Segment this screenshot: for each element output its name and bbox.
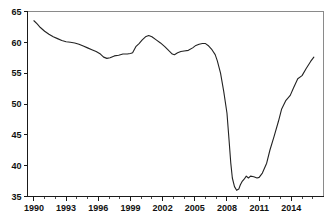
y-tick-label: 50	[11, 99, 21, 109]
plot-axis-left-bottom	[28, 12, 324, 197]
x-tick-label: 2002	[153, 203, 173, 213]
x-axis-tick-labels: 199019931996199920022005200820112014	[24, 203, 301, 213]
x-tick-label: 1993	[56, 203, 76, 213]
y-tick-label: 55	[11, 68, 21, 78]
x-tick-label: 2005	[185, 203, 205, 213]
y-tick-label: 40	[11, 161, 21, 171]
data-series-group	[34, 21, 314, 191]
plot-frame	[28, 12, 324, 197]
x-tick-label: 1996	[88, 203, 108, 213]
y-axis-tick-labels: 35404550556065	[11, 7, 21, 202]
y-tick-label: 60	[11, 38, 21, 48]
x-tick-label: 1999	[120, 203, 140, 213]
x-tick-label: 2008	[217, 203, 237, 213]
chart-canvas: 35404550556065 1990199319961999200220052…	[0, 0, 332, 223]
axis-ticks	[24, 12, 313, 201]
plot-border-top-right	[28, 12, 324, 197]
line-chart: 35404550556065 1990199319961999200220052…	[0, 0, 332, 223]
y-tick-label: 45	[11, 130, 21, 140]
data-line-series-1	[34, 21, 314, 191]
x-tick-label: 2011	[249, 203, 269, 213]
y-tick-label: 65	[11, 7, 21, 17]
x-tick-label: 2014	[281, 203, 301, 213]
y-tick-label: 35	[11, 192, 21, 202]
x-tick-label: 1990	[24, 203, 44, 213]
